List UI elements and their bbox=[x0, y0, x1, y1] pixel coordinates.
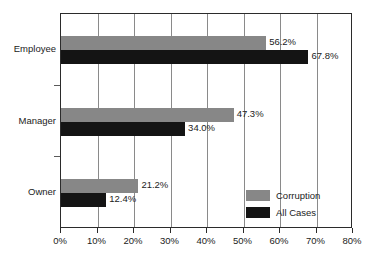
x-axis-label: 50% bbox=[223, 236, 263, 246]
x-axis-tick bbox=[133, 228, 134, 233]
x-axis-tick bbox=[316, 228, 317, 233]
x-axis-label: 70% bbox=[296, 236, 336, 246]
bar-chart: Corruption All Cases EmployeeManagerOwne… bbox=[0, 0, 378, 259]
x-axis-label: 0% bbox=[40, 236, 80, 246]
x-axis-label: 60% bbox=[259, 236, 299, 246]
x-axis-label: 40% bbox=[186, 236, 226, 246]
x-axis-label: 20% bbox=[113, 236, 153, 246]
x-axis-tick bbox=[352, 228, 353, 233]
x-axis-tick bbox=[206, 228, 207, 233]
x-axis-tick bbox=[243, 228, 244, 233]
x-axis-tick bbox=[97, 228, 98, 233]
x-axis-tick bbox=[60, 228, 61, 233]
x-axis-label: 10% bbox=[77, 236, 117, 246]
x-axis-label: 80% bbox=[332, 236, 372, 246]
x-axis-tick bbox=[170, 228, 171, 233]
x-axis-tick bbox=[279, 228, 280, 233]
x-axis-label: 30% bbox=[150, 236, 190, 246]
x-axis: 0%10%20%30%40%50%60%70%80% bbox=[0, 0, 378, 259]
